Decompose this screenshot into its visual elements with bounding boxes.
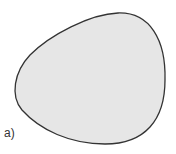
diagram-canvas: [0, 0, 176, 154]
blob-shape: [15, 13, 165, 144]
figure-label: a): [4, 126, 15, 140]
